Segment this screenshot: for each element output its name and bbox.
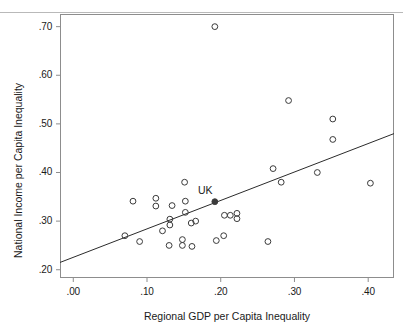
data-points (122, 24, 373, 250)
x-tick-label: .40 (348, 287, 388, 297)
data-point (270, 166, 276, 172)
y-tick-label: .40 (22, 167, 52, 177)
x-tick-label: .10 (127, 287, 167, 297)
data-point (169, 203, 175, 209)
data-point (160, 228, 166, 234)
data-point (130, 198, 136, 204)
data-point (278, 179, 284, 185)
data-point (182, 198, 188, 204)
data-point (265, 239, 271, 245)
data-point (314, 170, 320, 176)
data-point (167, 222, 173, 228)
x-tick-label: .00 (53, 287, 93, 297)
plot-canvas (0, 0, 403, 332)
data-point (153, 195, 159, 201)
x-axis-title: Regional GDP per Capita Inequality (60, 310, 394, 322)
data-point (179, 243, 185, 249)
x-tick-label: .30 (274, 287, 314, 297)
data-point (227, 212, 233, 218)
data-point (286, 98, 292, 104)
y-tick-label: .20 (22, 265, 52, 275)
data-point (137, 239, 143, 245)
data-point (166, 243, 172, 249)
data-point (213, 238, 219, 244)
y-tick-label: .70 (22, 22, 52, 32)
uk-annotation-label: UK (198, 184, 213, 196)
data-point (221, 233, 227, 239)
data-point (330, 137, 336, 143)
y-tick-label: .60 (22, 70, 52, 80)
y-tick-label: .30 (22, 216, 52, 226)
data-point (368, 180, 374, 186)
axis-ticks (56, 27, 368, 282)
y-tick-label: .50 (22, 119, 52, 129)
data-point (179, 237, 185, 243)
scatter-plot-figure: .20.30.40.50.60.70 .00.10.20.30.40 UK Re… (0, 0, 403, 332)
y-axis-title: National Income per Capita Inequality (12, 83, 24, 258)
data-point (212, 24, 218, 30)
data-point (153, 203, 159, 209)
data-point (189, 243, 195, 249)
data-point (330, 116, 336, 122)
regression-line (60, 134, 394, 263)
data-point (222, 212, 228, 218)
x-tick-label: .20 (201, 287, 241, 297)
data-point (182, 179, 188, 185)
data-point-uk (212, 199, 218, 205)
